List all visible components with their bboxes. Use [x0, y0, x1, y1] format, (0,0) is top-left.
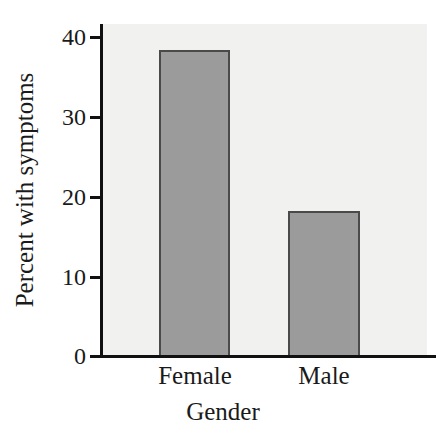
- y-tick-mark-10: [90, 276, 102, 279]
- y-axis-title: Percent with symptoms: [10, 0, 44, 380]
- bar-male: [288, 211, 360, 358]
- bar-female: [159, 50, 230, 358]
- y-tick-mark-30: [90, 116, 102, 119]
- y-tick-label-30: 30: [38, 105, 86, 129]
- y-tick-mark-40: [90, 36, 102, 39]
- y-tick-label-0: 0: [38, 344, 86, 368]
- y-tick-label-20: 20: [38, 185, 86, 209]
- plot-area-background: [102, 24, 427, 357]
- bar-chart-figure: 40 30 20 10 0 Female Male Gender Percent…: [0, 0, 446, 439]
- x-axis-line: [100, 355, 436, 358]
- y-tick-label-10: 10: [38, 265, 86, 289]
- x-tick-label-female: Female: [134, 362, 256, 390]
- y-tick-label-40: 40: [38, 25, 86, 49]
- y-tick-mark-20: [90, 196, 102, 199]
- x-tick-label-male: Male: [268, 362, 380, 390]
- y-tick-mark-0: [90, 355, 102, 358]
- y-axis-line: [100, 24, 103, 358]
- x-axis-title: Gender: [0, 398, 446, 426]
